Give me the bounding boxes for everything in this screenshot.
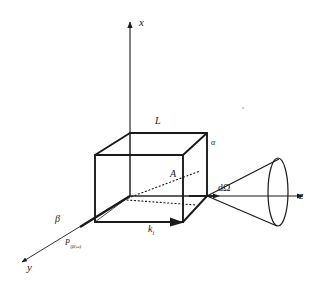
area-element-label: A [170,169,176,179]
cube-length-label: L [155,116,161,126]
k-subscript-text: i [152,229,154,236]
cube-edge-top-left-diagonal [95,133,130,155]
diagram-svg [0,0,315,284]
cone-base-ellipse [268,158,288,226]
cube-alpha-label: α [211,139,215,147]
solid-angle-label: dΩ [218,183,230,193]
y-axis-label: y [27,262,32,273]
solid-angle-omega-text: Ω [223,182,230,193]
k-i-arrowhead [170,218,184,227]
page-speck [242,107,244,109]
dotted-rays-group [127,171,200,205]
axes-group [22,22,303,262]
figure-canvas: x y z L α A dΩ ki β P[β(ω) [0,0,315,284]
beta-label: β [55,214,60,224]
polarization-label: P[β(ω) [65,239,81,250]
dotted-ray-upper [128,171,200,198]
polarization-subscript-text: [β(ω) [70,244,81,249]
cube-edge-bottom-right-diagonal [183,196,207,222]
cube-edge-diagonal-back-left [95,196,130,222]
dotted-ray-lower [127,200,196,205]
cube-edge-top-right-diagonal [183,133,207,155]
d-omega-arrowhead [213,193,220,198]
cone-edge-lower [207,196,277,226]
incident-wavevector-label: ki [148,224,154,236]
z-axis-label: z [299,190,303,201]
x-axis-label: x [139,17,144,28]
